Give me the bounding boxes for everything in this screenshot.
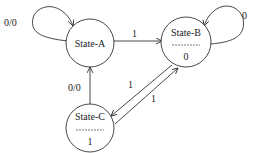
transition-c-to-a: 0/0 [68, 67, 90, 104]
state-c-output: 1 [88, 136, 93, 147]
transition-a-self: 0/0 [4, 7, 73, 41]
transition-a-to-b-label: 1 [132, 28, 137, 39]
transition-b-to-c: 1 [111, 65, 172, 116]
transition-a-self-label: 0/0 [4, 17, 17, 28]
state-a: State-A [66, 19, 114, 67]
state-diagram: 0/0 1 0 1 1 0/0 State-A State-B 0 State [0, 0, 260, 153]
transition-c-to-b-label: 1 [151, 93, 156, 104]
transition-b-self-label: 0 [242, 10, 247, 21]
transition-b-to-c-label: 1 [128, 79, 133, 90]
state-c: State-C 1 [66, 104, 114, 152]
state-a-name: State-A [75, 38, 106, 49]
transition-c-to-b: 1 [115, 68, 178, 124]
state-b-name: State-B [171, 27, 201, 38]
state-c-name: State-C [75, 111, 105, 122]
transition-a-to-b: 1 [114, 28, 162, 41]
state-b-output: 0 [184, 51, 189, 62]
state-b: State-B 0 [161, 17, 211, 67]
transition-c-to-a-label: 0/0 [68, 82, 81, 93]
